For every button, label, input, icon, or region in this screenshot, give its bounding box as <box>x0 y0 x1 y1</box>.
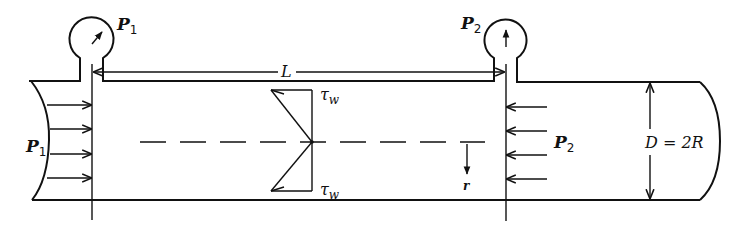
pressure-gauge-right <box>485 19 527 66</box>
gauge-needle-icon <box>92 32 102 44</box>
pipe <box>29 66 720 200</box>
outlet-pressure-arrows <box>507 107 547 179</box>
pipe-top-wall-right <box>517 66 700 82</box>
pipe-top-wall-left <box>29 66 80 81</box>
radial-coordinate-label: r <box>463 179 471 193</box>
diameter-label: D = 2R <box>644 133 704 152</box>
pipe-top-wall-middle <box>103 66 494 81</box>
inlet-pressure-arrows <box>47 105 91 178</box>
outlet-pressure-label: P2 <box>553 132 574 155</box>
shear-stress-profile <box>271 90 314 191</box>
shear-top-label: τw <box>320 85 340 107</box>
inlet-pressure-label: P1 <box>25 136 46 159</box>
pressure-gauge-left <box>70 17 114 66</box>
gauge-right-label: P2 <box>460 13 481 36</box>
length-label: L <box>280 62 292 81</box>
shear-bottom-label: τw <box>320 180 340 202</box>
length-dimension: L <box>94 62 504 81</box>
gauge-left-label: P1 <box>116 14 137 37</box>
pipe-flow-diagram: L P1 P2 P1 P2 τw τw r D = 2R <box>0 0 742 225</box>
